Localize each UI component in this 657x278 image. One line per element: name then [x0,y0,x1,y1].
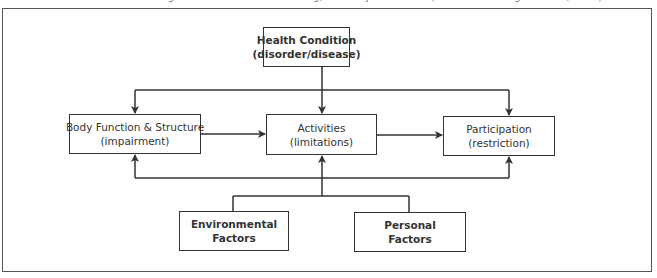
personal-factors-title: Personal [384,218,436,232]
participation-subtitle: (restriction) [468,136,529,150]
environmental-factors-box: Environmental Factors [179,211,289,251]
body-function-title: Body Function & Structure [66,120,204,134]
personal-factors-box: Personal Factors [354,212,466,252]
environmental-factors-subtitle: Factors [212,231,256,245]
health-condition-box: Health Condition (disorder/disease) [263,27,350,67]
personal-factors-subtitle: Factors [388,232,432,246]
body-function-box: Body Function & Structure (impairment) [69,114,201,154]
participation-title: Participation [466,122,532,136]
health-condition-title: Health Condition [257,33,357,47]
activities-title: Activities [298,121,346,135]
participation-box: Participation (restriction) [443,116,555,156]
body-function-subtitle: (impairment) [101,134,170,148]
environmental-factors-title: Environmental [191,217,277,231]
health-condition-subtitle: (disorder/disease) [253,47,361,61]
activities-box: Activities (limitations) [266,114,377,155]
activities-subtitle: (limitations) [290,135,353,149]
